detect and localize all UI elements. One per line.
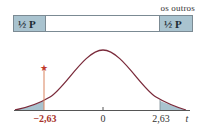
- star-icon: ★: [40, 63, 48, 73]
- tick-pos: 2,63: [152, 113, 170, 124]
- tick-zero: 0: [101, 113, 106, 124]
- t-distribution-chart: ★: [0, 0, 208, 130]
- tick-neg: −2,63: [33, 113, 56, 124]
- axis-var-label: t: [186, 113, 189, 124]
